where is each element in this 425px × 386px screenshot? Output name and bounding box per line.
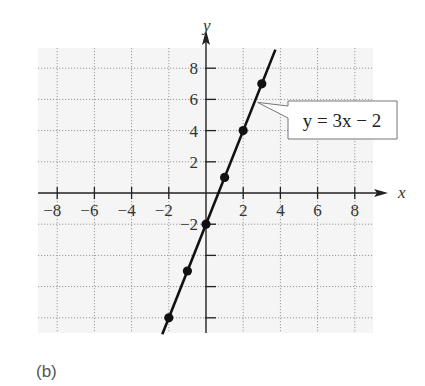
y-tick-label: 8 [190, 59, 199, 78]
x-tick-label: −2 [155, 201, 173, 220]
y-tick-label: 6 [190, 90, 199, 109]
x-axis-label: x [397, 183, 406, 202]
x-tick-label: 8 [351, 201, 360, 220]
data-point [164, 313, 173, 322]
y-axis-label: y [201, 16, 211, 35]
x-tick-label: 2 [239, 201, 248, 220]
y-tick-label: 4 [190, 122, 199, 141]
x-tick-label: −8 [43, 201, 61, 220]
data-point [183, 266, 192, 275]
x-tick-label: −4 [118, 201, 137, 220]
data-point [257, 79, 266, 88]
graph: xy−8−6−4−224688642−2y = 3x − 2 [0, 0, 425, 386]
x-tick-label: 6 [313, 201, 322, 220]
data-point [239, 126, 248, 135]
figure-label: (b) [36, 362, 57, 382]
y-tick-label: 2 [190, 153, 199, 172]
x-tick-label: 4 [276, 201, 285, 220]
equation-label: y = 3x − 2 [303, 110, 381, 131]
x-tick-label: −6 [80, 201, 98, 220]
data-point [220, 173, 229, 182]
data-point [201, 220, 210, 229]
y-tick-label: −2 [180, 215, 198, 234]
